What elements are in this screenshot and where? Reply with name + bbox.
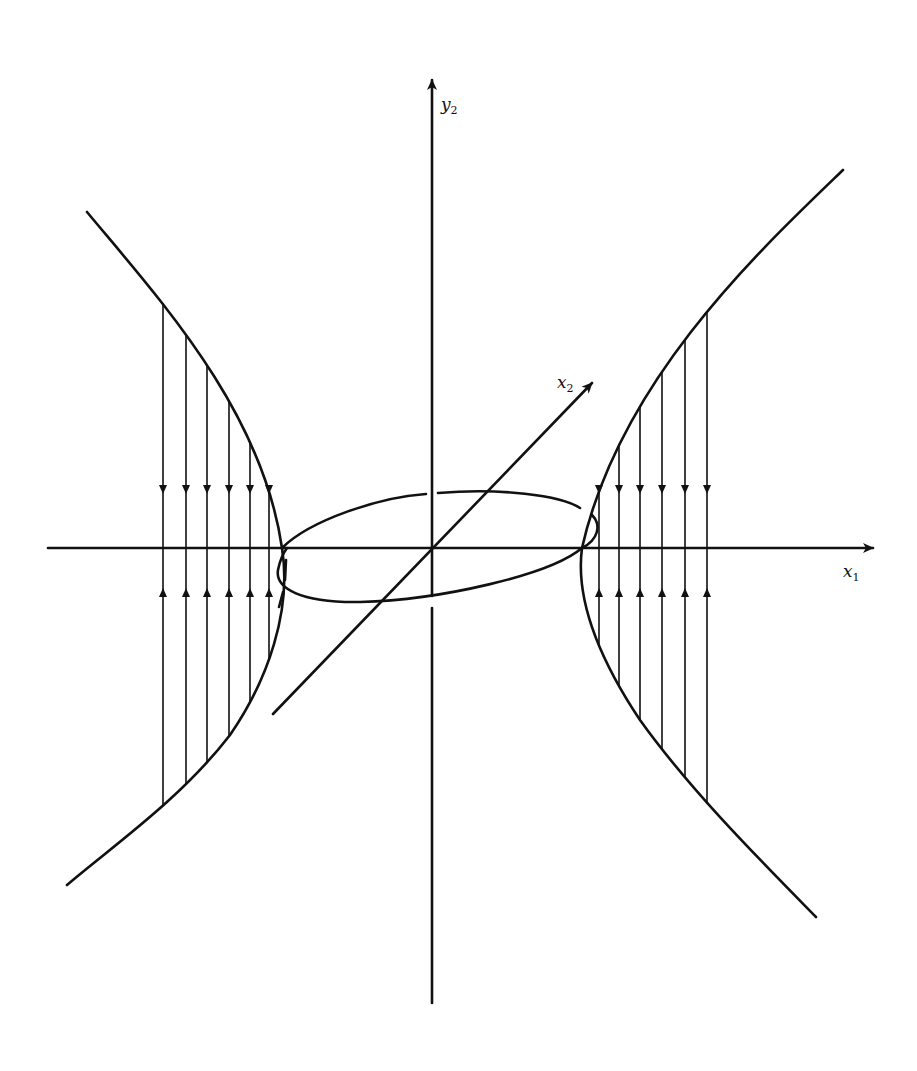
arrow-down-icon <box>681 485 689 494</box>
arrow-up-icon <box>615 588 623 597</box>
flow-lines <box>159 304 711 805</box>
arrow-down-icon <box>246 485 254 494</box>
arrow-down-icon <box>159 485 167 494</box>
arrow-down-icon <box>703 485 711 494</box>
x1-axis-label: x1 <box>843 563 860 583</box>
arrow-up-icon <box>203 588 211 597</box>
arrow-up-icon <box>681 588 689 597</box>
arrow-up-icon <box>159 588 167 597</box>
arrow-up-icon <box>658 588 666 597</box>
arrow-down-icon <box>182 485 190 494</box>
y2-axis-label: y2 <box>441 96 458 116</box>
arrow-up-icon <box>595 588 603 597</box>
arrow-up-icon <box>225 588 233 597</box>
arrow-down-icon <box>615 485 623 494</box>
phase-portrait-figure: y2 x2 x1 <box>0 0 917 1071</box>
arrow-down-icon <box>636 485 644 494</box>
arrow-down-icon <box>658 485 666 494</box>
x2-axis-label: x2 <box>557 374 574 394</box>
arrow-down-icon <box>265 485 273 494</box>
arrow-up-icon <box>182 588 190 597</box>
diagram-canvas <box>0 0 917 1071</box>
right-hyperbola-branch <box>581 170 843 917</box>
arrow-up-icon <box>265 588 273 597</box>
arrow-up-icon <box>246 588 254 597</box>
arrow-up-icon <box>636 588 644 597</box>
arrow-down-icon <box>595 485 603 494</box>
arrow-down-icon <box>225 485 233 494</box>
arrow-up-icon <box>703 588 711 597</box>
arrow-down-icon <box>203 485 211 494</box>
